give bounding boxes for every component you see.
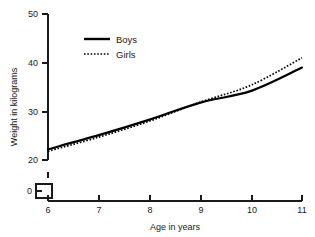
- weight-by-age-line-chart: 50 40 30 20 0 6 7 8 9 10 11 Age in years…: [0, 0, 315, 237]
- series-line-girls: [48, 58, 302, 151]
- x-tick-label-11: 11: [297, 205, 306, 215]
- x-tick-label-8: 8: [147, 205, 152, 215]
- chart-legend: Boys Girls: [84, 34, 137, 60]
- x-axis-title: Age in years: [150, 222, 201, 232]
- x-tick-label-10: 10: [247, 205, 257, 215]
- legend-label-girls: Girls: [116, 49, 136, 60]
- y-tick-label-50: 50: [28, 9, 38, 19]
- y-tick-label-30: 30: [28, 107, 38, 117]
- y-tick-label-0: 0: [27, 186, 32, 196]
- legend-label-boys: Boys: [116, 34, 137, 45]
- chart-canvas: 50 40 30 20 0 6 7 8 9 10 11 Age in years…: [0, 0, 315, 237]
- x-tick-label-6: 6: [45, 205, 50, 215]
- series-line-boys: [48, 68, 302, 150]
- x-tick-label-7: 7: [96, 205, 101, 215]
- y-tick-label-40: 40: [28, 58, 38, 68]
- y-axis-title: Weight in kilograms: [9, 67, 19, 146]
- x-tick-label-9: 9: [198, 205, 203, 215]
- y-tick-label-20: 20: [28, 155, 38, 165]
